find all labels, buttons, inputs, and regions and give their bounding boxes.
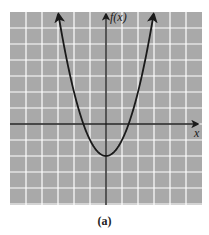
figure-caption: (a) [0, 214, 209, 229]
x-axis-label: x [193, 126, 200, 140]
parabola-chart: f(x) x [0, 0, 209, 235]
y-axis-label: f(x) [110, 10, 127, 24]
